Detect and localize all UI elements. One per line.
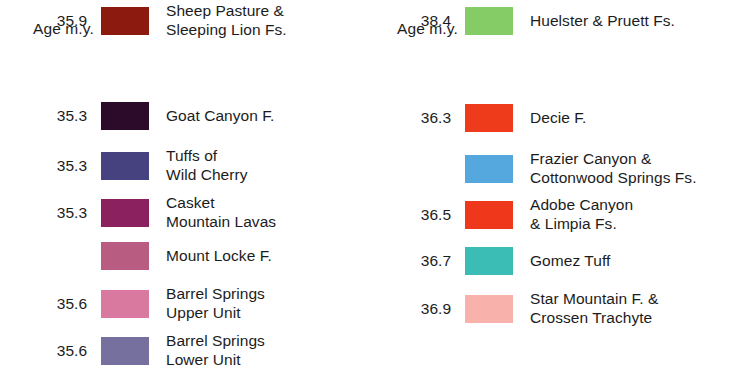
- age-value: 36.3: [397, 110, 453, 126]
- unit-label: Adobe Canyon & Limpia Fs.: [530, 196, 633, 234]
- unit-label: Sheep Pasture & Sleeping Lion Fs.: [166, 2, 287, 40]
- color-swatch: [101, 102, 149, 130]
- unit-label: Gomez Tuff: [530, 252, 610, 271]
- unit-label: Goat Canyon F.: [166, 107, 274, 126]
- legend-entry: 35.6 Barrel Springs Lower Unit: [33, 330, 265, 372]
- legend-entry: 35.6 Barrel Springs Upper Unit: [33, 283, 265, 325]
- color-swatch: [101, 7, 149, 35]
- legend-entry: Frazier Canyon & Cottonwood Springs Fs.: [397, 148, 697, 190]
- legend-entry: 35.3 Casket Mountain Lavas: [33, 192, 276, 234]
- unit-label: Barrel Springs Upper Unit: [166, 285, 265, 323]
- unit-label: Star Mountain F. & Crossen Trachyte: [530, 290, 658, 328]
- age-value: 36.7: [397, 253, 453, 269]
- legend-entry: 36.5 Adobe Canyon & Limpia Fs.: [397, 194, 633, 236]
- color-swatch: [101, 152, 149, 180]
- age-value: 35.3: [33, 158, 89, 174]
- color-swatch: [465, 104, 513, 132]
- legend-entry: 35.3 Goat Canyon F.: [33, 95, 274, 137]
- legend-entry: Mount Locke F.: [33, 235, 272, 277]
- color-swatch: [465, 295, 513, 323]
- age-value: 38.4: [397, 13, 453, 29]
- color-swatch: [465, 7, 513, 35]
- color-swatch: [465, 201, 513, 229]
- age-value: 35.6: [33, 296, 89, 312]
- color-swatch: [101, 242, 149, 270]
- unit-label: Frazier Canyon & Cottonwood Springs Fs.: [530, 150, 697, 188]
- color-swatch: [101, 199, 149, 227]
- age-value: 35.3: [33, 205, 89, 221]
- unit-label: Decie F.: [530, 109, 586, 128]
- color-swatch: [465, 247, 513, 275]
- unit-label: Tuffs of Wild Cherry: [166, 147, 248, 185]
- unit-label: Barrel Springs Lower Unit: [166, 332, 265, 370]
- legend-entry: 35.3 Tuffs of Wild Cherry: [33, 145, 248, 187]
- legend-column-left: Age m.y. 35.3 Goat Canyon F. 35.3 Tuffs …: [0, 0, 385, 383]
- unit-label: Mount Locke F.: [166, 247, 272, 266]
- legend-column-right: Age m.y. 36.3 Decie F. Frazier Canyon & …: [385, 0, 743, 383]
- legend-entry: 38.4 Huelster & Pruett Fs.: [397, 0, 675, 42]
- legend-entry: 36.7 Gomez Tuff: [397, 240, 610, 282]
- color-swatch: [465, 155, 513, 183]
- unit-label: Huelster & Pruett Fs.: [530, 12, 675, 31]
- legend-entry: 35.9 Sheep Pasture & Sleeping Lion Fs.: [33, 0, 287, 42]
- age-value: 36.9: [397, 301, 453, 317]
- age-value: 35.9: [33, 13, 89, 29]
- color-swatch: [101, 337, 149, 365]
- age-value: 35.6: [33, 343, 89, 359]
- legend-entry: 36.9 Star Mountain F. & Crossen Trachyte: [397, 288, 658, 330]
- stratigraphic-legend: Age m.y. 35.3 Goat Canyon F. 35.3 Tuffs …: [0, 0, 743, 383]
- unit-label: Casket Mountain Lavas: [166, 194, 276, 232]
- color-swatch: [101, 290, 149, 318]
- age-value: 36.5: [397, 207, 453, 223]
- legend-entry: 36.3 Decie F.: [397, 97, 586, 139]
- age-value: 35.3: [33, 108, 89, 124]
